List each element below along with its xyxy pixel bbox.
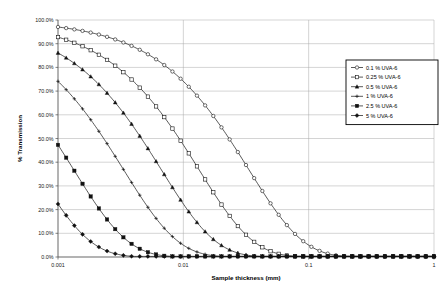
data-point-marker	[302, 240, 305, 243]
data-point-marker	[81, 29, 84, 32]
data-point-marker	[212, 191, 215, 194]
data-point-marker	[293, 232, 296, 235]
data-point-marker	[146, 95, 149, 98]
y-tick-label: 60.0%	[38, 112, 53, 118]
legend-label: 2.5 % UVA-6	[366, 103, 397, 109]
data-point-marker	[146, 251, 149, 254]
data-point-marker	[252, 240, 255, 243]
legend-label: 1 % UVA-6	[366, 93, 393, 99]
x-axis-title: Sample thickness (mm)	[211, 274, 280, 281]
data-point-marker	[179, 139, 182, 142]
data-point-marker	[228, 214, 231, 217]
data-point-marker	[56, 25, 59, 28]
data-point-marker	[89, 31, 92, 34]
data-point-marker	[130, 242, 133, 245]
data-point-marker	[97, 33, 100, 36]
data-point-marker	[285, 223, 288, 226]
data-point-marker	[73, 169, 76, 172]
chart-background	[0, 0, 448, 288]
data-point-marker	[130, 44, 133, 47]
data-point-marker	[81, 45, 84, 48]
y-axis-title: % Transmission	[16, 115, 23, 162]
data-point-marker	[187, 152, 190, 155]
data-point-marker	[163, 115, 166, 118]
data-point-marker	[64, 38, 67, 41]
transmission-chart: 0.0%10.0%20.0%30.0%40.0%50.0%60.0%70.0%8…	[0, 0, 448, 288]
data-point-marker	[122, 41, 125, 44]
y-tick-label: 90.0%	[38, 41, 53, 47]
data-point-marker	[171, 70, 174, 73]
x-tick-label: 0.1	[305, 262, 313, 268]
data-point-marker	[355, 75, 358, 78]
data-point-marker	[203, 104, 206, 107]
data-point-marker	[122, 236, 125, 239]
data-point-marker	[114, 38, 117, 41]
y-tick-label: 80.0%	[38, 64, 53, 70]
data-point-marker	[97, 53, 100, 56]
data-point-marker	[195, 94, 198, 97]
data-point-marker	[154, 105, 157, 108]
data-point-marker	[73, 28, 76, 31]
data-point-marker	[244, 233, 247, 236]
data-point-marker	[97, 207, 100, 210]
data-point-marker	[269, 250, 272, 253]
legend-label: 0.1 % UVA-6	[366, 65, 397, 71]
data-point-marker	[56, 143, 59, 146]
data-point-marker	[220, 126, 223, 129]
y-tick-label: 70.0%	[38, 88, 53, 94]
data-point-marker	[81, 182, 84, 185]
data-point-marker	[318, 249, 321, 252]
data-point-marker	[138, 247, 141, 250]
data-point-marker	[138, 86, 141, 89]
y-tick-label: 10.0%	[38, 230, 53, 236]
legend-label: 0.5 % UVA-6	[366, 84, 397, 90]
data-point-marker	[89, 49, 92, 52]
data-point-marker	[355, 66, 358, 69]
data-point-marker	[64, 26, 67, 29]
y-tick-label: 50.0%	[38, 136, 53, 142]
data-point-marker	[89, 195, 92, 198]
data-point-marker	[138, 48, 141, 51]
data-point-marker	[105, 58, 108, 61]
data-point-marker	[261, 246, 264, 249]
data-point-marker	[310, 245, 313, 248]
data-point-marker	[105, 35, 108, 38]
legend: 0.1 % UVA-60.25 % UVA-60.5 % UVA-61 % UV…	[346, 60, 438, 125]
data-point-marker	[114, 227, 117, 230]
x-tick-label: 1	[433, 262, 436, 268]
y-tick-label: 100.0%	[35, 17, 53, 23]
legend-label: 5 % UVA-6	[366, 113, 393, 119]
x-tick-label: 0.01	[178, 262, 189, 268]
data-point-marker	[277, 213, 280, 216]
data-point-marker	[114, 64, 117, 67]
data-point-marker	[228, 138, 231, 141]
data-point-marker	[64, 156, 67, 159]
legend-label: 0.25 % UVA-6	[366, 74, 400, 80]
data-point-marker	[252, 176, 255, 179]
data-point-marker	[105, 218, 108, 221]
data-point-marker	[73, 41, 76, 44]
data-point-marker	[146, 53, 149, 56]
y-tick-label: 40.0%	[38, 159, 53, 165]
data-point-marker	[269, 202, 272, 205]
data-point-marker	[56, 35, 59, 38]
data-point-marker	[154, 58, 157, 61]
chart-canvas: 0.0%10.0%20.0%30.0%40.0%50.0%60.0%70.0%8…	[0, 0, 448, 288]
data-point-marker	[122, 71, 125, 74]
data-point-marker	[130, 78, 133, 81]
data-point-marker	[244, 163, 247, 166]
data-point-marker	[187, 85, 190, 88]
data-point-marker	[212, 114, 215, 117]
y-tick-label: 30.0%	[38, 183, 53, 189]
data-point-marker	[195, 165, 198, 168]
y-tick-label: 0.0%	[41, 254, 53, 260]
data-point-marker	[236, 224, 239, 227]
data-point-marker	[220, 203, 223, 206]
y-tick-label: 20.0%	[38, 207, 53, 213]
data-point-marker	[163, 63, 166, 66]
data-point-marker	[171, 127, 174, 130]
data-point-marker	[203, 178, 206, 181]
data-point-marker	[179, 77, 182, 80]
x-tick-label: 0.001	[51, 262, 65, 268]
data-point-marker	[236, 150, 239, 153]
